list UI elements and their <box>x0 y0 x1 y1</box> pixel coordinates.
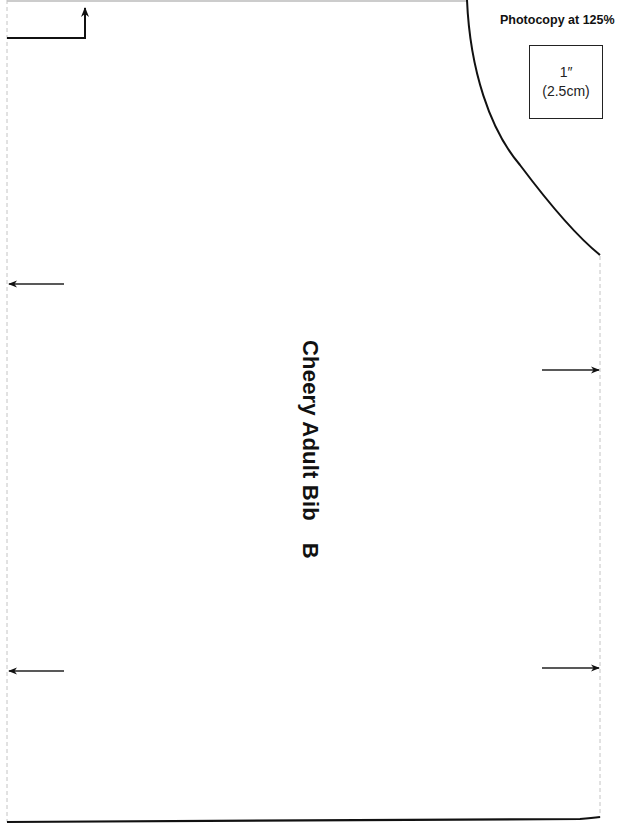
piece-letter: B <box>298 543 323 559</box>
hem-line <box>7 817 600 822</box>
scale-imperial: 1″ <box>560 63 573 82</box>
scale-metric: (2.5cm) <box>542 82 589 101</box>
photocopy-instruction: Photocopy at 125% <box>500 13 630 27</box>
pattern-title: Cheery Adult BibB <box>297 340 323 559</box>
corner-arrow-icon <box>7 8 85 38</box>
neckline-curve <box>467 0 600 255</box>
pattern-name: Cheery Adult Bib <box>298 340 323 521</box>
scale-reference-box: 1″ (2.5cm) <box>529 45 603 119</box>
